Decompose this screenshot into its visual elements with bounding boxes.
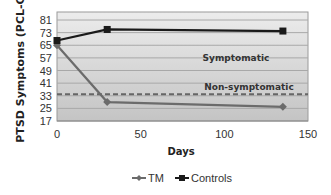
legend-item-tm: TM xyxy=(132,172,164,184)
diamond-marker-icon xyxy=(136,175,142,181)
legend: TM Controls xyxy=(132,172,232,184)
y-tick-label: 41 xyxy=(40,77,52,89)
square-marker-icon xyxy=(104,26,111,33)
y-tick-label: 25 xyxy=(40,102,52,114)
y-tick-label: 17 xyxy=(40,115,52,127)
y-tick-label: 65 xyxy=(40,39,52,51)
square-marker-icon xyxy=(279,28,286,35)
y-tick-label: 73 xyxy=(40,27,52,39)
x-tick-label: 0 xyxy=(54,128,60,140)
y-tick-label: 81 xyxy=(40,14,52,26)
y-axis-ticks: 817365574941332517 xyxy=(40,14,52,127)
x-tick-label: 50 xyxy=(135,128,147,140)
line-chart: 817365574941332517 050100150 Symptomatic… xyxy=(0,0,331,195)
annotation-non-symptomatic: Non-symptomatic xyxy=(204,82,294,92)
x-tick-label: 100 xyxy=(215,128,233,140)
legend-label-controls: Controls xyxy=(191,172,232,184)
legend-label-tm: TM xyxy=(148,172,164,184)
x-axis-title: Days xyxy=(167,146,194,157)
square-marker-icon xyxy=(179,175,185,181)
y-tick-label: 57 xyxy=(40,52,52,64)
square-marker-icon xyxy=(54,37,61,44)
legend-item-controls: Controls xyxy=(175,172,232,184)
y-tick-label: 33 xyxy=(40,90,52,102)
y-axis-title: PTSD Symptoms (PCL-C) xyxy=(14,0,27,143)
x-tick-label: 150 xyxy=(299,128,317,140)
x-axis-ticks: 050100150 xyxy=(54,128,317,140)
annotation-symptomatic: Symptomatic xyxy=(203,53,270,63)
y-tick-label: 49 xyxy=(40,65,52,77)
